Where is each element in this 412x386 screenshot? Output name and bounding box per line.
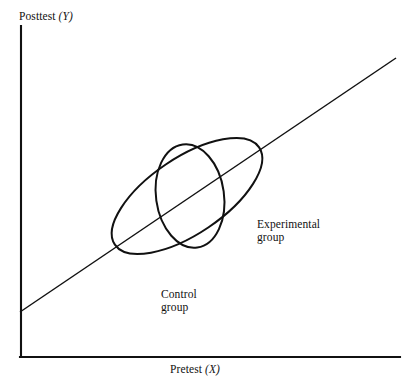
control-group-label: Control group xyxy=(161,288,197,313)
x-axis-label: Pretest (X) xyxy=(170,363,220,375)
experimental-group-label: Experimental group xyxy=(257,218,320,243)
x-axis-label-text: Pretest (X) xyxy=(170,363,220,375)
y-axis-label-text: Posttest (Y) xyxy=(19,10,73,22)
y-axis-label: Posttest (Y) xyxy=(19,10,73,22)
figure-drawing xyxy=(0,0,412,386)
regression-line xyxy=(20,58,396,312)
experimental-group-ellipse xyxy=(94,116,281,276)
figure-canvas: Posttest (Y) Pretest (X) Experimental gr… xyxy=(0,0,412,386)
control-group-ellipse xyxy=(149,140,231,252)
